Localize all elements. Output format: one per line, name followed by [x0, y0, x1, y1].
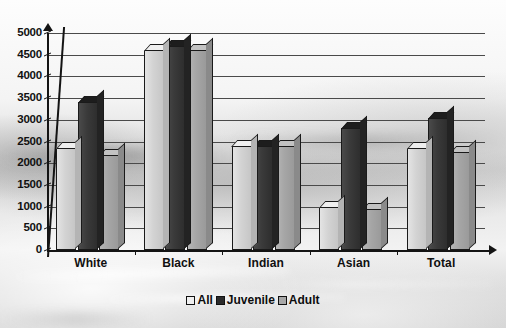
chart-legend: AllJuvenileAdult — [0, 293, 506, 307]
gridline — [47, 98, 485, 99]
gridline — [47, 76, 485, 77]
x-axis-label-black: Black — [133, 256, 223, 270]
bar-side-face — [360, 116, 367, 249]
gridline — [47, 33, 485, 34]
bar-side-face — [118, 142, 125, 249]
gridline — [47, 120, 485, 121]
y-axis-tick-label: 500 — [0, 222, 42, 233]
y-axis-line — [47, 33, 49, 250]
bar-side-face — [426, 136, 433, 249]
background-shade — [0, 312, 152, 326]
x-axis-label-total: Total — [396, 256, 486, 270]
chart-title — [0, 0, 506, 2]
x-axis-tick-mark — [397, 250, 398, 255]
x-axis-arrow-icon — [489, 245, 497, 255]
bar-side-face — [294, 134, 301, 249]
bar-side-face — [251, 134, 258, 249]
x-axis-tick-mark — [310, 250, 311, 255]
x-axis-tick-mark — [135, 250, 136, 255]
legend-item-juvenile[interactable]: Juvenile — [215, 293, 276, 307]
legend-swatch-juvenile-icon — [216, 296, 225, 305]
bar-side-face — [97, 90, 104, 249]
x-axis-line — [47, 250, 493, 252]
y-axis-tick-label: 2500 — [0, 136, 42, 147]
y-axis-tick-label: 2000 — [0, 157, 42, 168]
gridline — [47, 55, 485, 56]
bar-side-face — [447, 105, 454, 249]
y-axis-tick-label: 3000 — [0, 114, 42, 125]
x-axis-label-asian: Asian — [309, 256, 399, 270]
legend-label: All — [197, 293, 212, 307]
y-axis-tick-label: 4000 — [0, 70, 42, 81]
bar-white-all — [56, 148, 76, 250]
bar-side-face — [338, 194, 345, 249]
bar-total-all — [407, 148, 427, 250]
bar-indian-all — [232, 146, 252, 250]
x-axis-label-indian: Indian — [221, 256, 311, 270]
bar-side-face — [75, 136, 82, 249]
bar-side-face — [272, 134, 279, 249]
y-axis-tick-label: 0 — [0, 244, 42, 255]
bar-side-face — [469, 140, 476, 249]
legend-item-all[interactable]: All — [185, 293, 213, 307]
y-axis-tick-label: 4500 — [0, 49, 42, 60]
x-axis-tick-mark — [222, 250, 223, 255]
y-axis-arrow-icon — [43, 23, 53, 31]
background-highlight — [278, 282, 491, 287]
y-axis-tick-label: 1500 — [0, 179, 42, 190]
bar-asian-all — [319, 207, 339, 250]
legend-swatch-all-icon — [186, 296, 195, 305]
x-axis-label-white: White — [46, 256, 136, 270]
legend-label: Juvenile — [227, 293, 275, 307]
y-axis-tick-label: 3500 — [0, 92, 42, 103]
bar-chart: 5000450040003500300025002000150010005000… — [0, 0, 506, 328]
legend-item-adult[interactable]: Adult — [277, 293, 321, 307]
bar-side-face — [381, 196, 388, 249]
legend-swatch-adult-icon — [278, 296, 287, 305]
bar-black-all — [144, 50, 164, 250]
plot-area — [47, 33, 485, 250]
y-axis-tick-label: 5000 — [0, 27, 42, 38]
bar-side-face — [206, 38, 213, 249]
legend-label: Adult — [289, 293, 320, 307]
bar-side-face — [163, 38, 170, 249]
y-axis-tick-label: 1000 — [0, 201, 42, 212]
bar-side-face — [184, 34, 191, 249]
